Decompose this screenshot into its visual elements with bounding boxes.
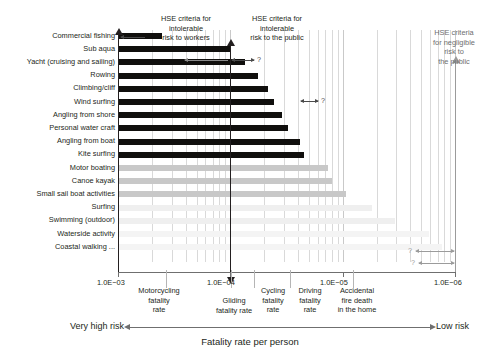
plot-area (118, 30, 455, 262)
ref-line: fire death (325, 296, 389, 306)
category-label: Motor boating (70, 163, 115, 172)
category-label: Rowing (90, 70, 115, 79)
bar-kite-surfing (118, 152, 304, 158)
ref-label-fire: Accidental fire death in the home (325, 286, 389, 315)
gridline (298, 30, 299, 262)
label-very-high-risk: Very high risk (70, 321, 124, 331)
category-label: Commercial fishing (52, 31, 115, 40)
gridline (343, 30, 344, 262)
category-label: Angling from boat (57, 136, 115, 145)
hse-negligible-criteria-line (455, 62, 456, 272)
bar-angling-from-boat (118, 139, 300, 145)
x-axis-tick (118, 272, 119, 277)
arrow-head-left (300, 99, 304, 103)
category-label: Surfing (92, 202, 115, 211)
category-label: Personal water craft (49, 123, 115, 132)
bar-angling-from-shore (118, 112, 282, 118)
arrow-head-left (120, 35, 124, 39)
annotation-line: HSE criteria (412, 28, 496, 38)
gridline (264, 30, 265, 262)
arrow-head-left (184, 58, 188, 62)
hse-public-criteria-line (230, 45, 231, 278)
uncertainty-question-mark: ? (321, 96, 325, 105)
annotation-line: risk to (412, 47, 496, 57)
annotation-hse-public: HSE criteria for intolerable risk to the… (221, 14, 333, 43)
bar-sub-aqua (118, 46, 230, 52)
bar-swimming-outdoor (118, 218, 395, 224)
x-axis-tick (343, 272, 344, 277)
category-label: Climbing/cliff (73, 83, 115, 92)
annotation-line: intolerable (221, 24, 333, 34)
arrow-head-left (231, 58, 235, 62)
gridline (309, 30, 310, 262)
workers-criteria-direction-arrow (121, 37, 145, 38)
hse-workers-criteria-line (118, 34, 119, 272)
arrow-head-right (251, 58, 255, 62)
bar-wind-surfing (118, 99, 274, 105)
gridline (332, 30, 333, 262)
gridline (377, 30, 378, 262)
category-label: Waterside activity (57, 229, 115, 238)
annotation-line: HSE criteria for (221, 14, 333, 24)
gridline (284, 30, 285, 262)
ref-line: rate (128, 305, 190, 315)
x-axis-line (118, 272, 455, 273)
arrow-head-left (124, 324, 130, 330)
annotation-hse-negligible: HSE criteria for negligible risk to the … (412, 28, 496, 66)
ref-line: fatality (128, 296, 190, 306)
ref-line: in the home (325, 305, 389, 315)
risk-direction-axis (130, 327, 430, 328)
gridline (338, 30, 339, 262)
bar-canoe-kayak (118, 178, 332, 184)
bar-rowing (118, 73, 258, 79)
x-tick-label-1e-4: 1.0E−04 (207, 278, 235, 287)
ref-line: Accidental (325, 286, 389, 296)
arrow-head-right (451, 249, 455, 253)
sub-aqua-uncertainty-arrow (232, 60, 254, 61)
sub-aqua-range-arrow (185, 60, 228, 61)
bar-motor-boating (118, 165, 328, 171)
arrow-head-right (315, 99, 319, 103)
label-low-risk: Low risk (436, 321, 469, 331)
waterside-uncertainty-arrow (416, 251, 454, 252)
coastal-walking-uncertainty-arrow (419, 263, 454, 264)
climbing-uncertainty-arrow (301, 101, 318, 102)
annotation-line: for negligible (412, 38, 496, 48)
category-label: Angling from shore (53, 110, 115, 119)
category-label: Canoe kayak (72, 176, 115, 185)
x-axis-tick (455, 272, 456, 277)
arrow-head-left (418, 261, 422, 265)
ref-line: Motorcycling (128, 286, 190, 296)
bar-surfing (118, 205, 372, 211)
category-label: Yacht (cruising and sailing) (27, 57, 115, 66)
category-label: Wind surfing (74, 97, 115, 106)
x-axis-title: Fatality rate per person (0, 336, 500, 347)
annotation-line: risk to the public (221, 33, 333, 43)
arrow-head-left (415, 249, 419, 253)
bar-coastal-walking (118, 244, 442, 250)
uncertainty-question-mark: ? (408, 246, 412, 255)
arrow-head-right (451, 261, 455, 265)
bar-small-sail-boat-activities (118, 191, 346, 197)
bar-waterside-activity (118, 231, 429, 237)
gridline (318, 30, 319, 262)
bar-personal-water-craft (118, 125, 288, 131)
category-label: Small sail boat activities (37, 189, 115, 198)
category-label: Swimming (outdoor) (49, 215, 115, 224)
ref-label-motorcycling: Motorcycling fatality rate (128, 286, 190, 315)
x-tick-label-1e-3: 1.0E−03 (97, 278, 125, 287)
chart-canvas: Commercial fishingSub aquaYacht (cruisin… (0, 0, 500, 358)
bar-climbing-cliff (118, 86, 268, 92)
gridline (396, 30, 397, 262)
category-label: Sub aqua (83, 44, 115, 53)
x-tick-label-1e-6: 1.0E−06 (434, 278, 462, 287)
category-label: Kite surfing (78, 149, 115, 158)
category-label: Coastal walking ... (55, 242, 115, 251)
annotation-line: the public (412, 57, 496, 67)
uncertainty-question-mark: ? (257, 55, 261, 64)
gridline (325, 30, 326, 262)
uncertainty-question-mark: ? (411, 258, 415, 267)
